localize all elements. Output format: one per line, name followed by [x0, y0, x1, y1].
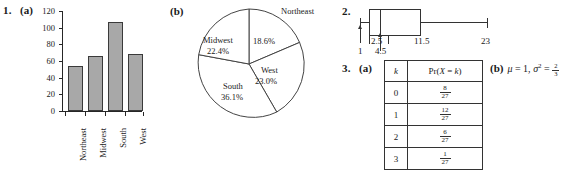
- bar-northeast: [68, 66, 83, 111]
- bar-chart-ytick-60: 60: [59, 61, 63, 62]
- problem-1-part-a-label: (a): [20, 4, 33, 16]
- bar-chart-ytick-80: 80: [59, 44, 63, 45]
- bar-chart-plot-area: 0 20 40 60 80 100 120 Northeast: [62, 11, 142, 112]
- problem-3-panel: 3. (a) k Pr(X = k) 0 8 27 1 12 27: [340, 58, 581, 175]
- pie-chart-graphic: Northeast 18.6% West 23.0% South 36.1% M…: [193, 8, 305, 120]
- problem-3-part-b-answer: (b)μ = 1, σ2 = 2 3: [490, 62, 559, 77]
- table-header-row: k Pr(X = k): [385, 61, 483, 82]
- pie-label-northeast: Northeast: [281, 6, 314, 16]
- bar-chart-ytick-0: 0: [59, 111, 63, 112]
- fraction-2-denominator: 27: [440, 136, 451, 144]
- boxplot-q1-leader: [369, 36, 370, 44]
- bar-chart-xlabel-west: West: [139, 128, 148, 145]
- bar-chart-ytick-label-120: 120: [42, 7, 55, 16]
- bar-chart-x-axis: [62, 111, 142, 112]
- table-header-k: k: [385, 61, 408, 82]
- fraction-1: 12 27: [440, 107, 451, 123]
- boxplot-q1-leader-right: [388, 36, 389, 44]
- bar-chart-xtick-0: [65, 112, 66, 116]
- pmf-table: k Pr(X = k) 0 8 27 1 12 27 2: [384, 60, 483, 170]
- fraction-3: 1 27: [440, 151, 451, 167]
- fraction-1-denominator: 27: [440, 114, 451, 122]
- boxplot-label-median: 4.5: [375, 47, 386, 56]
- pie-value-midwest: 22.4%: [207, 46, 229, 56]
- bar-midwest: [88, 56, 103, 111]
- boxplot-label-q1: 2.5: [371, 37, 382, 46]
- bar-chart-xtick-1: [85, 112, 86, 116]
- bar-chart-xtick-4: [143, 112, 144, 116]
- table-row: 0 8 27: [385, 82, 483, 104]
- problem-2-number: 2.: [342, 5, 351, 17]
- bar-chart-ytick-label-40: 40: [47, 73, 56, 82]
- pie-chart-svg: [193, 8, 305, 120]
- problem-3-part-a-label: (a): [359, 62, 372, 74]
- boxplot-label-min: 1: [358, 47, 363, 56]
- bar-chart-ytick-label-60: 60: [47, 57, 56, 66]
- table-row: 1 12 27: [385, 104, 483, 126]
- table-header-pr-prefix: Pr(: [428, 66, 439, 76]
- table-cell-prob-3: 1 27: [408, 148, 483, 170]
- variance-numerator: 2: [552, 63, 559, 70]
- bar-chart-xtick-3: [125, 112, 126, 116]
- table-cell-prob-0: 8 27: [408, 82, 483, 104]
- pie-value-northeast: 18.6%: [253, 36, 275, 46]
- bar-chart-ytick-label-100: 100: [42, 23, 55, 32]
- problem-3-part-b-label: (b): [490, 62, 503, 74]
- pie-label-west: West: [261, 65, 278, 75]
- pie-label-midwest: Midwest: [203, 35, 233, 45]
- bar-chart-ytick-100: 100: [59, 28, 63, 29]
- problem-1b-piechart-panel: (b) Northeast 18.6% West 23.0% South 36.…: [160, 0, 340, 175]
- boxplot-right-whisker: [421, 22, 488, 23]
- boxplot-label-q3: 11.5: [414, 37, 429, 46]
- table-header-pr: Pr(X = k): [408, 61, 483, 82]
- table-cell-k-1: 1: [385, 104, 408, 126]
- boxplot-median-line: [380, 9, 381, 36]
- pie-value-west: 23.0%: [255, 76, 277, 86]
- boxplot-label-max: 23: [481, 37, 490, 46]
- table-header-k-text: k: [394, 66, 398, 76]
- bar-chart-xlabel-midwest: Midwest: [99, 128, 108, 158]
- fraction-0-denominator: 27: [440, 92, 451, 100]
- table-cell-prob-2: 6 27: [408, 126, 483, 148]
- problem-2-boxplot-panel: 2. 2.5 11.5 23 1 4.5: [340, 0, 581, 58]
- bar-west: [128, 54, 143, 111]
- boxplot-min-arrow: [358, 25, 362, 29]
- boxplot-box: [369, 9, 421, 36]
- pie-value-south: 36.1%: [221, 92, 243, 102]
- bar-chart-ytick-40: 40: [59, 78, 63, 79]
- table-row: 2 6 27: [385, 126, 483, 148]
- table-row: 3 1 27: [385, 148, 483, 170]
- bar-chart-ytick-label-80: 80: [47, 40, 56, 49]
- fraction-2: 6 27: [440, 129, 451, 145]
- variance-fraction: 2 3: [552, 63, 559, 78]
- mu-equation: = 1,: [512, 63, 530, 74]
- boxplot-min-leader: [360, 28, 361, 43]
- fraction-2-numerator: 6: [440, 129, 451, 136]
- variance-denominator: 3: [552, 70, 559, 78]
- bar-chart-ytick-120: 120: [59, 11, 63, 12]
- fraction-1-numerator: 12: [440, 107, 451, 114]
- table-cell-k-2: 2: [385, 126, 408, 148]
- problem-1-number: 1.: [3, 4, 12, 16]
- fraction-3-numerator: 1: [440, 151, 451, 158]
- table-cell-k-3: 3: [385, 148, 408, 170]
- bar-chart-ytick-20: 20: [59, 94, 63, 95]
- fraction-3-denominator: 27: [440, 158, 451, 166]
- boxplot-max-cap: [487, 18, 488, 28]
- fraction-0-numerator: 8: [440, 85, 451, 92]
- problem-1a-barchart-panel: 1. (a) 0 20 40 60 80 100 120: [0, 0, 160, 175]
- table-cell-k-0: 0: [385, 82, 408, 104]
- pie-label-south: South: [223, 81, 243, 91]
- bar-chart-ytick-label-20: 20: [47, 90, 56, 99]
- boxplot-graphic: 2.5 11.5 23 1 4.5: [358, 5, 573, 55]
- table-cell-prob-1: 12 27: [408, 104, 483, 126]
- bar-south: [108, 22, 123, 111]
- bar-chart-xlabel-northeast: Northeast: [79, 128, 88, 161]
- table-header-pr-eq: =: [445, 66, 455, 76]
- problem-3-number: 3.: [342, 62, 351, 74]
- problem-1-part-b-label: (b): [170, 5, 183, 17]
- fraction-0: 8 27: [440, 85, 451, 101]
- bar-chart-xtick-2: [105, 112, 106, 116]
- bar-chart-xlabel-south: South: [119, 128, 128, 148]
- table-header-pr-suffix: ): [459, 66, 462, 76]
